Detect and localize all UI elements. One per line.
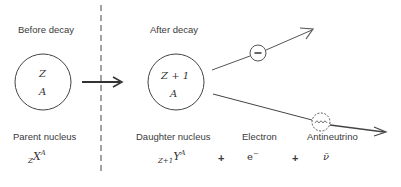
before-decay-title: Before decay — [18, 24, 74, 35]
parent-z: Z — [39, 68, 46, 79]
electron-path — [212, 56, 250, 70]
electron-label: Electron — [242, 131, 277, 142]
plus-sign-2: + — [292, 152, 298, 164]
daughter-z: Z + 1 — [161, 70, 189, 81]
parent-formula: ZXA — [28, 149, 46, 165]
daughter-nucleus-label: Daughter nucleus — [136, 131, 210, 142]
parent-nucleus-label: Parent nucleus — [13, 131, 76, 142]
daughter-a: A — [170, 88, 177, 99]
antineutrino-label: Antineutrino — [307, 131, 358, 142]
electron-arrowhead — [300, 28, 313, 39]
plus-sign-1: + — [218, 152, 224, 164]
parent-nucleus-circle — [15, 54, 71, 110]
daughter-formula: Z+1YA — [158, 149, 186, 165]
antineutrino-formula: ν̄ — [323, 151, 329, 162]
daughter-nucleus-circle — [148, 54, 204, 110]
after-decay-title: After decay — [150, 24, 198, 35]
antineutrino-particle-icon — [312, 113, 330, 131]
electron-formula: e− — [247, 150, 259, 162]
antineutrino-path — [213, 94, 312, 120]
parent-a: A — [39, 86, 46, 97]
